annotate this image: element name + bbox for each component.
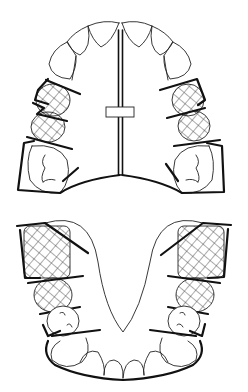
upper-arch (18, 22, 224, 194)
lower-arch (17, 220, 231, 380)
lower-incisors (46, 338, 202, 380)
upper-canines (49, 42, 191, 79)
midline-screw (106, 30, 134, 175)
upper-left-premolars (27, 79, 80, 149)
upper-right-molar (122, 143, 224, 193)
lower-right-molars (161, 223, 231, 314)
lower-premolars (43, 306, 205, 336)
upper-incisors (67, 22, 173, 55)
lower-left-molars (17, 223, 88, 314)
upper-plate (72, 56, 168, 80)
dental-diagram (0, 0, 248, 392)
dental-arch-drawing (0, 0, 248, 392)
upper-right-premolars (160, 79, 220, 146)
